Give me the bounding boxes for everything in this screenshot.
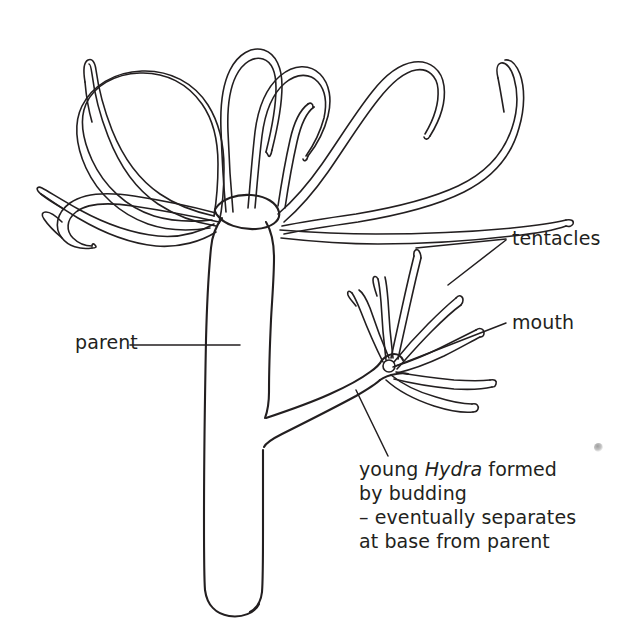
young-hydra-mouth xyxy=(383,360,395,372)
scan-artifact-speck xyxy=(594,443,603,452)
parent-hydra-body xyxy=(204,218,274,616)
parent-tentacles xyxy=(37,49,573,249)
label-parent: parent xyxy=(75,330,138,354)
label-young-hydra-genus: Hydra xyxy=(425,458,483,480)
label-young-hydra-line1-prefix: young xyxy=(359,458,425,480)
label-young-hydra-line4: at base from parent xyxy=(359,530,550,552)
label-mouth: mouth xyxy=(512,310,574,334)
leader-lines xyxy=(130,239,506,456)
label-tentacles: tentacles xyxy=(512,226,601,250)
leader-tentacles-b xyxy=(448,240,506,285)
label-young-hydra-line1-suffix: formed xyxy=(482,458,557,480)
young-hydra-bud xyxy=(264,250,496,447)
label-young-hydra-line3: – eventually separates xyxy=(359,506,576,528)
label-young-hydra-line2: by budding xyxy=(359,482,467,504)
leader-mouth xyxy=(393,323,506,367)
leader-young-hydra xyxy=(356,390,388,456)
label-young-hydra: young Hydra formed by budding – eventual… xyxy=(359,457,576,553)
hydra-budding-diagram: tentacles mouth parent young Hydra forme… xyxy=(0,0,627,638)
